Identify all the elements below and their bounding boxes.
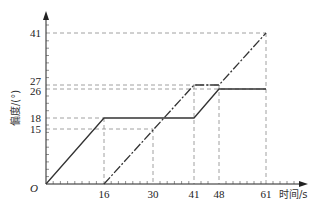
x-tick-61: 61 <box>261 188 272 200</box>
series-solid-line <box>46 89 266 184</box>
y-tick-26: 26 <box>30 85 42 97</box>
x-axis-title: 时间/s <box>279 188 308 200</box>
origin-label: O <box>30 182 38 194</box>
reference-lines <box>46 33 266 184</box>
y-axis-title: 偏度/(°) <box>9 90 21 126</box>
y-axis-arrow-icon <box>43 11 49 20</box>
x-tick-41: 41 <box>189 188 200 200</box>
chart-canvas: 41 27 26 18 15 O 16 30 41 48 61 时间/s 偏度/… <box>0 0 326 213</box>
x-axis-arrow-icon <box>299 181 308 187</box>
y-tick-41: 41 <box>30 27 41 39</box>
x-tick-48: 48 <box>214 188 226 200</box>
y-tick-15: 15 <box>30 123 42 135</box>
x-tick-16: 16 <box>99 188 111 200</box>
series-dash-dot-line <box>104 33 266 184</box>
x-tick-30: 30 <box>148 188 160 200</box>
axes <box>46 16 304 184</box>
